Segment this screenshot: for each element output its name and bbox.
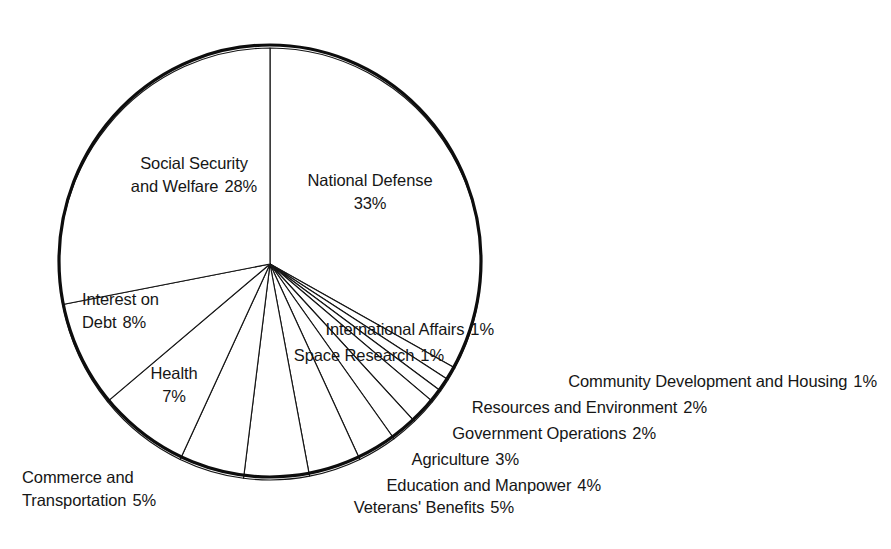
slice-label-line2: Transportation bbox=[22, 491, 126, 509]
slice-label-text: International Affairs bbox=[325, 320, 464, 338]
slice-label-line2: Debt bbox=[82, 313, 116, 331]
slice-pct-health: 7% bbox=[126, 385, 222, 408]
slice-pct-community-development: 1% bbox=[853, 372, 877, 390]
slice-label-text: Space Research bbox=[294, 346, 415, 364]
slice-label-commerce-and-transportation: Commerce and Transportation5% bbox=[22, 466, 234, 511]
slice-label-education-and-manpower: Education and Manpower4% bbox=[386, 474, 601, 496]
pie-chart-figure: Social Security and Welfare28% National … bbox=[0, 0, 891, 549]
slice-pct-education-manpower: 4% bbox=[577, 476, 601, 494]
slice-label-line2: and Welfare bbox=[131, 177, 219, 195]
slice-label-community-development-and-housing: Community Development and Housing1% bbox=[568, 370, 877, 392]
slice-pct-space-research: 1% bbox=[420, 346, 444, 364]
slice-label-line1: Health bbox=[126, 362, 222, 385]
slice-pct-international-affairs: 1% bbox=[470, 320, 494, 338]
slice-label-text: Agriculture bbox=[412, 450, 490, 468]
slice-pct-government-operations: 2% bbox=[632, 424, 656, 442]
slice-label-health: Health 7% bbox=[126, 362, 222, 407]
slice-label-line1: Social Security bbox=[108, 152, 280, 175]
slice-pct-social-security: 28% bbox=[224, 177, 257, 195]
slice-label-line1: Interest on bbox=[82, 288, 232, 311]
slice-label-resources-and-environment: Resources and Environment2% bbox=[472, 396, 707, 418]
slice-label-text: Education and Manpower bbox=[386, 476, 571, 494]
slice-pct-agriculture: 3% bbox=[495, 450, 519, 468]
slice-label-interest-on-debt: Interest on Debt8% bbox=[82, 288, 232, 333]
slice-label-line2-wrap: and Welfare28% bbox=[108, 175, 280, 198]
slice-label-text: Community Development and Housing bbox=[568, 372, 847, 390]
slice-pct-veterans-benefits: 5% bbox=[490, 498, 514, 516]
slice-pct-commerce: 5% bbox=[132, 491, 156, 509]
slice-label-national-defense: National Defense 33% bbox=[281, 169, 459, 214]
slice-label-space-research: Space Research1% bbox=[294, 344, 444, 366]
slice-label-line1: National Defense bbox=[281, 169, 459, 192]
slice-label-social-security-and-welfare: Social Security and Welfare28% bbox=[108, 152, 280, 197]
slice-label-agriculture: Agriculture3% bbox=[412, 448, 519, 470]
slice-label-government-operations: Government Operations2% bbox=[452, 422, 656, 444]
slice-label-veterans-benefits: Veterans' Benefits5% bbox=[354, 496, 514, 518]
slice-label-line2-wrap: Transportation5% bbox=[22, 489, 234, 512]
slice-label-international-affairs: International Affairs1% bbox=[325, 318, 494, 340]
slice-pct-resources-environment: 2% bbox=[683, 398, 707, 416]
slice-pct-national-defense: 33% bbox=[281, 192, 459, 215]
slice-label-line1: Commerce and bbox=[22, 466, 234, 489]
slice-label-text: Government Operations bbox=[452, 424, 626, 442]
slice-label-text: Veterans' Benefits bbox=[354, 498, 485, 516]
slice-pct-interest-on-debt: 8% bbox=[122, 313, 146, 331]
slice-label-line2-wrap: Debt8% bbox=[82, 311, 232, 334]
slice-label-text: Resources and Environment bbox=[472, 398, 678, 416]
